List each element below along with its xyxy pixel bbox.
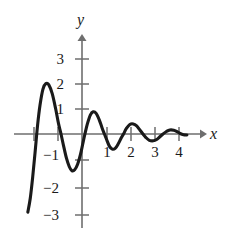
y-tick-label-1: 1: [34, 102, 64, 117]
y-axis-arrow-icon: [78, 34, 87, 41]
x-axis-arrow-icon: [200, 130, 207, 139]
x-tick-label-4: 4: [167, 145, 191, 160]
x-tick-label-3: 3: [143, 145, 167, 160]
x-tick-label-1: 1: [95, 145, 119, 160]
x-tick-label-2: 2: [119, 145, 143, 160]
x-axis-label: x: [210, 126, 217, 142]
y-tick-label--3: −3: [29, 208, 59, 223]
y-tick-label--2: −2: [29, 181, 59, 196]
graph-figure: 3 2 1 −1 −2 −3 1 2 3 4 y x: [0, 0, 240, 235]
y-tick-label-2: 2: [34, 77, 64, 92]
y-axis-label: y: [77, 12, 84, 28]
plot-canvas: [0, 0, 240, 235]
y-tick-label-3: 3: [34, 52, 64, 67]
y-tick-label--1: −1: [29, 148, 59, 163]
